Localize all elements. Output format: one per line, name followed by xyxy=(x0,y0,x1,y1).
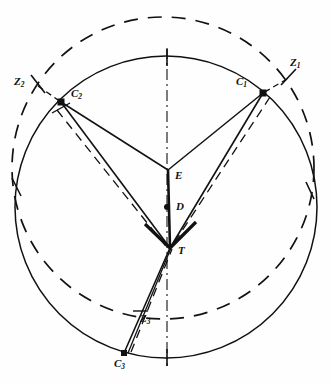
label-T: T xyxy=(178,245,185,256)
tick-right-intersection xyxy=(306,182,314,199)
label-E: E xyxy=(175,170,182,181)
tick-left-intersection xyxy=(12,178,21,196)
dashed-Z1-C1 xyxy=(263,79,287,93)
label-Z3: Z3 xyxy=(140,313,150,325)
point-dot-C3 xyxy=(121,350,127,356)
label-C2: C2 xyxy=(71,88,82,100)
dashed-C2-T xyxy=(57,110,168,249)
label-Z2: Z2 xyxy=(14,76,24,88)
segment-C3-T xyxy=(124,248,170,353)
point-dot-C1 xyxy=(260,90,267,97)
label-D: D xyxy=(176,201,184,212)
point-dot-C2 xyxy=(58,99,65,106)
segment-C1-T xyxy=(170,93,263,248)
dashed-C1-T xyxy=(172,97,270,246)
segment-C1-E xyxy=(168,93,263,170)
geometry-figure: C1 C2 C3 Z1 Z2 Z3 E D T xyxy=(0,0,331,383)
label-C3: C3 xyxy=(114,358,125,370)
segment-C2-T xyxy=(61,102,170,248)
dashed-circle xyxy=(12,17,314,319)
ray-end-thick-left xyxy=(145,224,170,248)
segment-C3-T-second xyxy=(128,248,171,353)
label-Z1: Z1 xyxy=(290,57,300,69)
label-C1: C1 xyxy=(236,76,247,88)
point-dot-D xyxy=(164,204,170,210)
diagram-canvas xyxy=(0,0,331,383)
dashed-C3-T xyxy=(131,249,172,352)
